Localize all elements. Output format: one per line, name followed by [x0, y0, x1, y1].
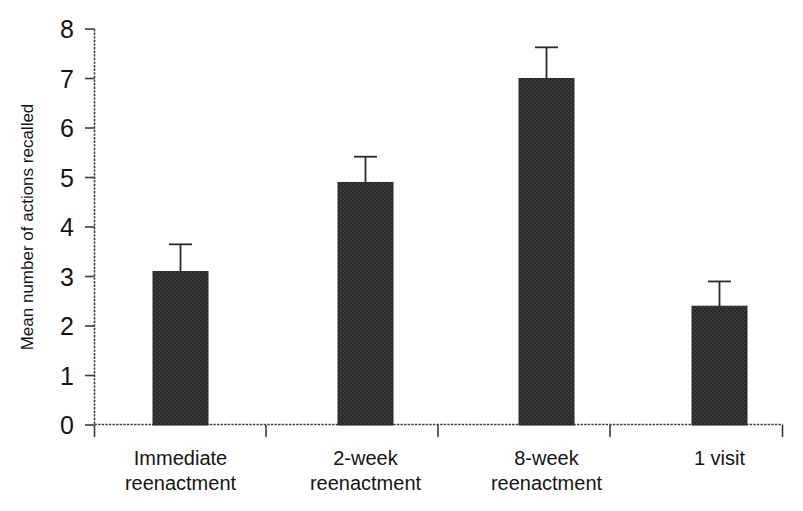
- y-tick-label-0: 0: [60, 411, 74, 439]
- x-category-label-1-line1: 2-week: [333, 447, 398, 469]
- x-category-label-3-line1: 1 visit: [694, 447, 746, 469]
- x-category-label-1-line2: reenactment: [310, 472, 422, 494]
- x-category-label-3: 1 visit: [694, 447, 746, 469]
- y-tick-label-7: 7: [60, 65, 74, 93]
- y-tick-label-2: 2: [60, 312, 74, 340]
- x-category-label-2-line2: reenactment: [491, 472, 603, 494]
- y-axis-title: Mean number of actions recalled: [18, 104, 37, 351]
- y-tick-label-8: 8: [60, 15, 74, 43]
- x-category-label-0-line1: Immediate: [134, 447, 227, 469]
- y-tick-label-5: 5: [60, 164, 74, 192]
- y-tick-label-6: 6: [60, 114, 74, 142]
- bar-chart-figure: 8 7 6 5 4 3 2 1 0 Mean number of actions…: [0, 0, 803, 511]
- bar-2-week-reenactment: [338, 182, 393, 425]
- x-category-label-0-line2: reenactment: [125, 472, 237, 494]
- x-category-label-2-line1: 8-week: [514, 447, 579, 469]
- y-tick-label-1: 1: [60, 362, 74, 390]
- chart-canvas: 8 7 6 5 4 3 2 1 0 Mean number of actions…: [0, 0, 803, 511]
- bar-8-week-reenactment: [519, 79, 574, 426]
- plot-background: [0, 0, 803, 511]
- y-tick-labels: 8 7 6 5 4 3 2 1 0: [60, 15, 74, 439]
- y-tick-label-4: 4: [60, 213, 74, 241]
- bar-1-visit: [692, 306, 747, 425]
- bar-immediate-reenactment: [153, 272, 208, 425]
- y-tick-label-3: 3: [60, 263, 74, 291]
